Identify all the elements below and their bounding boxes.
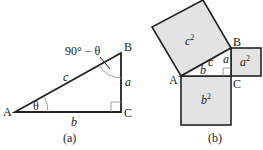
- side-a-label-b: a: [223, 52, 229, 66]
- panel-b: A B C c a b c2 a2 b2 (b): [152, 0, 261, 145]
- caption-a: (a): [63, 131, 76, 145]
- side-c-label-b: c: [208, 55, 214, 69]
- vertex-c-label: C: [124, 106, 132, 120]
- vertex-b-label-b: B: [233, 35, 241, 49]
- vertex-c-label-b: C: [233, 77, 241, 91]
- angle-b-arc: [99, 65, 121, 78]
- vertex-a-label: A: [3, 105, 12, 119]
- vertex-a-label-b: A: [169, 73, 178, 87]
- side-a-label: a: [125, 75, 131, 89]
- pythagoras-diagram: A B C c a b θ 90° − θ (a) A B C c a b c2…: [0, 0, 263, 150]
- side-b-label-b: b: [200, 63, 206, 77]
- vertex-b-label: B: [124, 40, 132, 54]
- side-b-label: b: [71, 115, 77, 129]
- angle-theta-arc: [44, 97, 48, 112]
- panel-a: A B C c a b θ 90° − θ (a): [3, 40, 132, 145]
- caption-b: (b): [208, 131, 222, 145]
- right-angle-mark: [111, 102, 121, 112]
- angle-theta-label: θ: [33, 99, 39, 113]
- angle-b-label: 90° − θ: [65, 44, 101, 58]
- side-c-label: c: [63, 70, 69, 84]
